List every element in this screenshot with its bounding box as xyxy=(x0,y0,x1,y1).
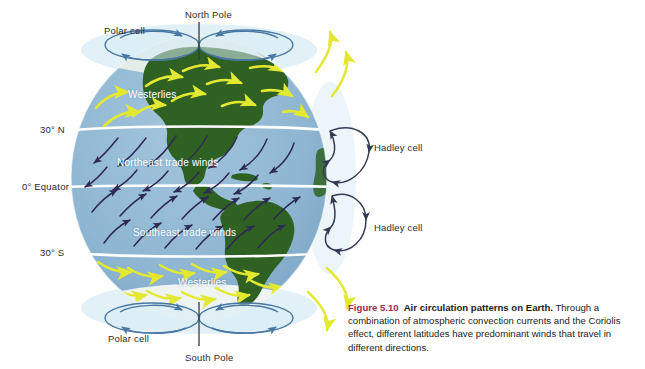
label-south-pole: South Pole xyxy=(185,352,233,363)
air-circulation-figure: Polar cell North Pole Polar cell South P… xyxy=(0,0,645,369)
label-hadley-cell-north: Hadley cell xyxy=(374,142,423,153)
latitude-line-equator xyxy=(64,186,335,188)
caption-lead-sentence: Air circulation patterns on Earth. xyxy=(404,302,553,313)
label-hadley-cell-south: Hadley cell xyxy=(374,222,423,233)
label-westerlies-north: Westerlies xyxy=(128,89,177,100)
label-polar-cell-north: Polar cell xyxy=(104,25,145,36)
caption-figure-number: Figure 5.10 xyxy=(348,302,399,313)
label-southeast-trade-winds: Southeast trade winds xyxy=(133,227,236,238)
figure-caption: Figure 5.10Air circulation patterns on E… xyxy=(348,301,640,354)
label-northeast-trade-winds: Northeast trade winds xyxy=(117,157,218,168)
label-latitude-30n: 30° N xyxy=(40,124,65,135)
label-latitude-30s: 30° S xyxy=(40,247,64,258)
label-latitude-equator: 0° Equator xyxy=(22,181,69,192)
label-polar-cell-south: Polar cell xyxy=(108,333,149,344)
label-north-pole: North Pole xyxy=(185,9,232,20)
label-westerlies-south: Westerlies xyxy=(178,277,227,288)
